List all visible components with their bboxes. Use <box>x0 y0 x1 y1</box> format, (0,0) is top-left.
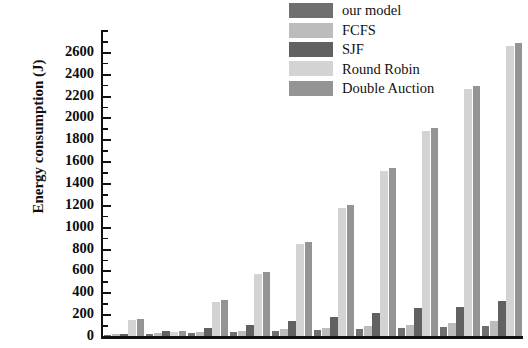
bar-sjf <box>414 308 422 336</box>
bar-our-model <box>398 328 406 336</box>
bar-our-model <box>188 333 196 336</box>
y-tick-major <box>103 227 111 229</box>
y-tick-major <box>103 117 111 119</box>
bar-our-model <box>356 329 364 336</box>
legend-item-round-robin: Round Robin <box>289 59 519 78</box>
bar-fcfs <box>322 328 330 336</box>
y-tick-label: 1000 <box>22 218 94 235</box>
bar-double-auction <box>389 168 397 336</box>
bar-sjf <box>120 334 128 336</box>
bar-sjf <box>456 307 464 337</box>
bar-sjf <box>498 301 506 336</box>
bar-our-model <box>272 331 280 336</box>
bar-our-model <box>482 326 490 336</box>
bar-our-model <box>440 327 448 336</box>
bar-fcfs <box>364 326 372 336</box>
bar-group <box>187 30 229 336</box>
bar-round-robin <box>380 171 388 336</box>
bar-our-model <box>230 332 238 336</box>
legend-item-fcfs: FCFS <box>289 20 519 39</box>
y-tick-minor <box>103 128 108 130</box>
y-tick-minor <box>103 238 108 240</box>
bar-sjf <box>288 321 296 336</box>
y-tick-minor <box>103 172 108 174</box>
bar-chart-figure: Energy consumption (J) 02004006008001000… <box>0 0 528 348</box>
bar-round-robin <box>338 208 346 336</box>
bar-sjf <box>372 313 380 336</box>
bar-fcfs <box>154 333 162 336</box>
legend-label-fcfs: FCFS <box>342 23 376 38</box>
legend-label-double-auction: Double Auction <box>342 81 434 96</box>
y-tick-minor <box>103 41 108 43</box>
y-tick-minor <box>103 325 108 327</box>
y-tick-label: 1800 <box>22 130 94 147</box>
bar-sjf <box>330 317 338 336</box>
legend-swatch-round-robin <box>289 61 333 76</box>
y-tick-label: 200 <box>22 305 94 322</box>
bar-fcfs <box>490 321 498 336</box>
bar-group <box>229 30 271 336</box>
legend-item-our-model: our model <box>289 1 519 20</box>
legend-item-sjf: SJF <box>289 40 519 59</box>
y-tick-minor <box>103 107 108 109</box>
bar-double-auction <box>221 300 229 336</box>
y-tick-label: 800 <box>22 240 94 257</box>
y-tick-label: 400 <box>22 283 94 300</box>
bar-double-auction <box>179 331 187 336</box>
y-tick-minor <box>103 260 108 262</box>
y-tick-label: 2600 <box>22 43 94 60</box>
y-tick-minor <box>103 85 108 87</box>
bar-double-auction <box>263 272 271 336</box>
bar-double-auction <box>431 128 439 336</box>
y-tick-major <box>103 96 111 98</box>
bar-round-robin <box>254 274 262 336</box>
bar-double-auction <box>305 242 313 336</box>
y-tick-label: 1600 <box>22 152 94 169</box>
y-tick-major <box>103 74 111 76</box>
y-tick-label: 2200 <box>22 87 94 104</box>
bar-fcfs <box>112 334 120 336</box>
legend-item-double-auction: Double Auction <box>289 79 519 98</box>
y-tick-label: 0 <box>22 327 94 344</box>
legend-swatch-sjf <box>289 42 333 57</box>
legend-label-round-robin: Round Robin <box>342 62 420 77</box>
y-tick-minor <box>103 303 108 305</box>
y-tick-major <box>103 292 111 294</box>
y-tick-major <box>103 249 111 251</box>
legend-label-sjf: SJF <box>342 42 364 57</box>
bar-round-robin <box>422 131 430 336</box>
bar-fcfs <box>280 329 288 336</box>
chart-legend: our model FCFS SJF Round Robin Double Au… <box>289 1 519 98</box>
legend-swatch-double-auction <box>289 81 333 96</box>
y-tick-minor <box>103 216 108 218</box>
y-tick-major <box>103 52 111 54</box>
bar-fcfs <box>406 325 414 336</box>
legend-swatch-fcfs <box>289 23 333 38</box>
bar-our-model <box>314 330 322 336</box>
y-tick-minor <box>103 194 108 196</box>
x-axis-line <box>101 336 523 339</box>
bar-round-robin <box>128 320 136 336</box>
y-tick-major <box>103 314 111 316</box>
bar-our-model <box>146 334 154 336</box>
y-tick-major <box>103 183 111 185</box>
y-tick-major <box>103 161 111 163</box>
bar-sjf <box>246 325 254 336</box>
bar-round-robin <box>170 332 178 336</box>
bar-double-auction <box>347 205 355 336</box>
bar-fcfs <box>196 332 204 336</box>
bar-double-auction <box>137 319 145 336</box>
y-tick-label: 1400 <box>22 174 94 191</box>
y-tick-minor <box>103 150 108 152</box>
y-tick-minor <box>103 281 108 283</box>
y-tick-label: 2400 <box>22 65 94 82</box>
bar-group <box>145 30 187 336</box>
bar-sjf <box>204 328 212 336</box>
y-tick-label: 2000 <box>22 108 94 125</box>
y-tick-major <box>103 139 111 141</box>
y-tick-minor <box>103 63 108 65</box>
y-tick-major <box>103 205 111 207</box>
y-tick-major <box>103 270 111 272</box>
y-tick-label: 600 <box>22 261 94 278</box>
bar-sjf <box>162 331 170 336</box>
